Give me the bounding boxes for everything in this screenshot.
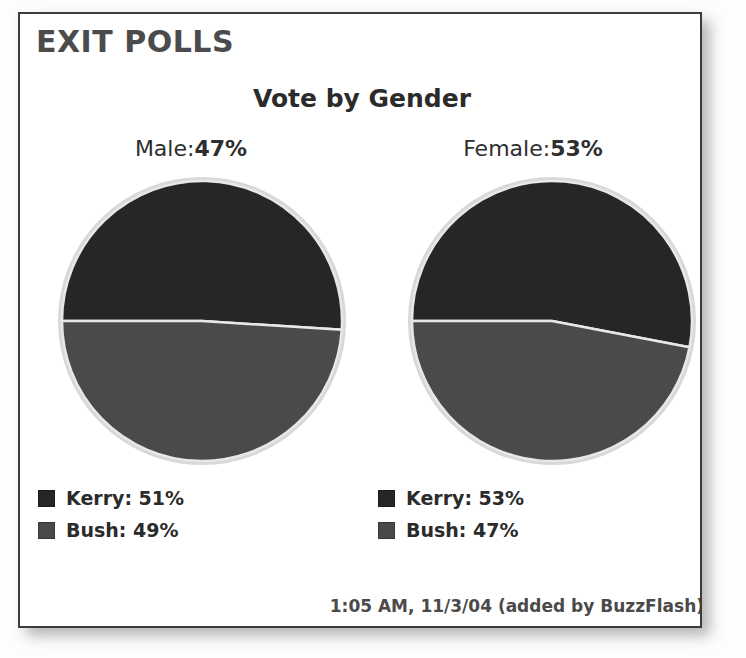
pie-slice-kerry [62, 181, 342, 330]
female-share-value: 53% [550, 136, 603, 161]
legend-swatch-bush-icon [38, 522, 55, 539]
legend-label-bush-female: Bush: 47% [406, 519, 519, 541]
legend-label-bush-male: Bush: 49% [66, 519, 179, 541]
legend-swatch-kerry-icon [378, 490, 395, 507]
legend-swatch-bush-icon [378, 522, 395, 539]
source-timestamp-note: 1:05 AM, 11/3/04 (added by BuzzFlash) [330, 596, 702, 616]
legend-label-kerry-male: Kerry: 51% [66, 487, 184, 509]
legend-swatch-kerry-icon [38, 490, 55, 507]
scanned-page-background: EXIT POLLS Vote by Gender Male:47% Femal… [0, 0, 746, 658]
exit-polls-card: EXIT POLLS Vote by Gender Male:47% Femal… [18, 12, 702, 628]
legend-item-bush-male: Bush: 49% [38, 514, 184, 546]
female-pie-slices [412, 181, 692, 461]
pie-slice-bush [62, 321, 342, 461]
legend-label-kerry-female: Kerry: 53% [406, 487, 524, 509]
male-share-caption: Male:47% [20, 136, 362, 161]
male-pie-slices [62, 181, 342, 461]
female-share-caption: Female:53% [362, 136, 702, 161]
male-legend: Kerry: 51% Bush: 49% [38, 482, 184, 546]
female-legend: Kerry: 53% Bush: 47% [378, 482, 524, 546]
page-title: EXIT POLLS [36, 24, 234, 59]
male-label: Male: [135, 136, 195, 161]
legend-item-kerry-male: Kerry: 51% [38, 482, 184, 514]
legend-item-kerry-female: Kerry: 53% [378, 482, 524, 514]
female-pie-chart [408, 177, 696, 465]
male-pie-svg [58, 177, 346, 465]
female-pie-svg [408, 177, 696, 465]
chart-title: Vote by Gender [20, 84, 702, 113]
pie-slice-bush [412, 321, 690, 461]
male-pie-chart [58, 177, 346, 465]
female-label: Female: [463, 136, 550, 161]
male-share-value: 47% [194, 136, 247, 161]
legend-item-bush-female: Bush: 47% [378, 514, 524, 546]
